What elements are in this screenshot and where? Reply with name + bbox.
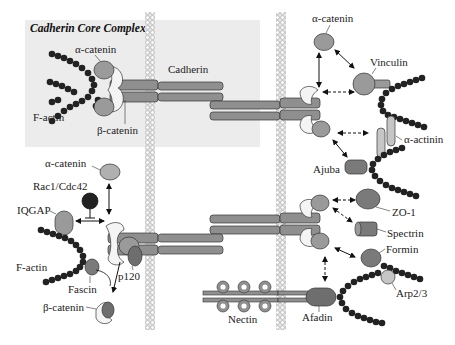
arrow-fascin-curve bbox=[96, 270, 110, 286]
f-actin-left bbox=[38, 227, 87, 286]
afadin bbox=[306, 288, 336, 306]
p120 bbox=[128, 246, 142, 266]
membrane-left bbox=[145, 12, 155, 330]
arrow-alpha-vinculin bbox=[335, 50, 354, 68]
alpha-catenin-top-right-upper bbox=[314, 34, 334, 51]
f-actin-left-label: F-actin bbox=[16, 261, 48, 273]
alpha-catenin-left-label: α-catenin bbox=[45, 157, 87, 169]
beta-catenin-left-label: β-catenin bbox=[43, 301, 85, 313]
arp2-3-label: Arp2/3 bbox=[396, 287, 428, 299]
zo-1-label: ZO-1 bbox=[392, 206, 416, 218]
zo-1 bbox=[356, 189, 380, 209]
afadin-label: Afadin bbox=[302, 311, 333, 323]
nectin bbox=[203, 281, 310, 312]
p120-label: p120 bbox=[118, 270, 141, 282]
cadherin-label: Cadherin bbox=[168, 63, 209, 75]
alpha-actinin-a bbox=[387, 116, 395, 146]
alpha-actinin-label: α-actinin bbox=[404, 133, 444, 145]
ajuba-label: Ajuba bbox=[313, 163, 340, 175]
alpha-catenin-bottom-right-lower bbox=[311, 233, 329, 249]
alpha-catenin-top-right-lower bbox=[312, 121, 330, 137]
vinculin bbox=[353, 73, 375, 95]
fascin-label: Fascin bbox=[68, 283, 97, 295]
arrow-ajuba bbox=[333, 140, 347, 157]
f-actin-right-middle bbox=[369, 145, 420, 200]
vinculin-label: Vinculin bbox=[370, 56, 408, 68]
cadherin-adhesion-diagram: Cadherin Core Complex Cadherin F-actin α… bbox=[0, 0, 455, 345]
rac1-cdc42 bbox=[82, 193, 98, 209]
nectin-label: Nectin bbox=[228, 313, 258, 325]
alpha-catenin-core-bottom bbox=[94, 98, 114, 116]
core-complex-title: Cadherin Core Complex bbox=[30, 22, 146, 35]
formin-label: Formin bbox=[386, 243, 419, 255]
arrow-formin bbox=[335, 248, 355, 257]
iqgap bbox=[55, 211, 73, 235]
iqgap-label: IQGAP bbox=[17, 204, 51, 216]
f-actin-core-label: F-actin bbox=[33, 111, 65, 123]
arrow-dashed-spectrin bbox=[333, 208, 352, 222]
alpha-catenin-left bbox=[100, 164, 120, 180]
formin bbox=[361, 249, 381, 267]
spectrin-label: Spectrin bbox=[387, 227, 424, 239]
alpha-catenin-top-right-label: α-catenin bbox=[312, 12, 354, 24]
beta-catenin-detached bbox=[102, 302, 114, 318]
membrane-right bbox=[276, 12, 286, 330]
fascin bbox=[85, 259, 99, 275]
alpha-catenin-core-top bbox=[94, 61, 114, 79]
arp2-3 bbox=[381, 270, 395, 284]
ajuba bbox=[345, 160, 367, 174]
alpha-catenin-core-label: α-catenin bbox=[75, 43, 117, 55]
rac1-cdc42-label: Rac1/Cdc42 bbox=[33, 180, 87, 192]
alpha-catenin-bottom-right-upper bbox=[311, 195, 329, 211]
beta-catenin-core-label: β-catenin bbox=[97, 124, 139, 136]
